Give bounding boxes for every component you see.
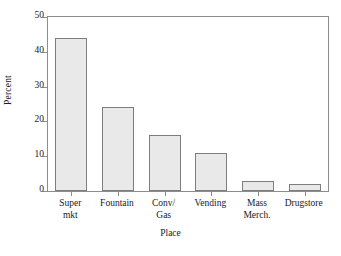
x-tick-label: Super mkt	[47, 198, 94, 221]
y-tick-label: 10	[35, 149, 45, 159]
bar-chart: Percent 01020304050 Super mktFountainCon…	[0, 0, 341, 256]
x-tick-label: Fountain	[94, 198, 141, 210]
x-tick-mark	[71, 191, 72, 196]
bar-slot	[141, 17, 188, 191]
bars-layer	[48, 17, 328, 191]
y-tick-label: 50	[35, 10, 45, 20]
x-tick-mark	[305, 191, 306, 196]
y-tick-label: 40	[35, 45, 45, 55]
y-tick-label: 20	[35, 114, 45, 124]
bar-slot	[281, 17, 328, 191]
x-tick-mark	[258, 191, 259, 196]
bar-slot	[48, 17, 95, 191]
bar	[102, 107, 134, 191]
x-axis-title: Place	[0, 228, 341, 238]
x-tick-label: Conv/ Gas	[140, 198, 187, 221]
x-tick-mark	[118, 191, 119, 196]
y-tick-label: 30	[35, 80, 45, 90]
bar	[242, 181, 274, 191]
bar-slot	[188, 17, 235, 191]
plot-area: 01020304050	[47, 16, 329, 192]
x-tick-label: Mass Merch.	[234, 198, 281, 221]
bar-slot	[235, 17, 282, 191]
bar	[149, 135, 181, 191]
x-axis-title-label: Place	[160, 228, 181, 238]
bar	[55, 38, 87, 191]
y-tick-label: 0	[39, 184, 44, 194]
bar	[195, 153, 227, 191]
x-tick-mark	[211, 191, 212, 196]
bar-slot	[95, 17, 142, 191]
x-tick-mark	[165, 191, 166, 196]
x-tick-label: Vending	[187, 198, 234, 210]
bar	[289, 184, 321, 191]
y-axis-title-label: Percent	[3, 75, 13, 105]
y-axis-title: Percent	[0, 0, 16, 180]
x-tick-label: Drugstore	[280, 198, 327, 210]
